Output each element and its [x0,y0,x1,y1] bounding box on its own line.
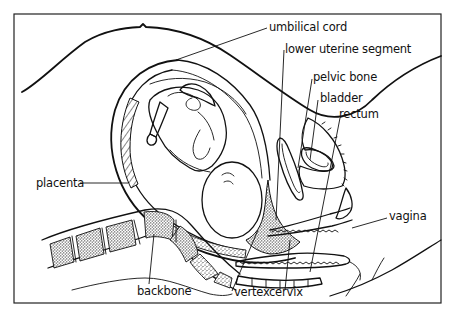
label-umbilical-cord: umbilical cord [269,20,347,34]
placenta [121,98,139,188]
vertebra [50,237,74,268]
vertebra [106,220,136,252]
abdomen-outline [22,24,441,117]
leader-umbilical-cord [176,28,267,60]
leader-vagina [352,218,387,228]
vertebra [190,254,218,280]
label-backbone: backbone [137,284,192,298]
label-vagina: vagina [389,209,426,223]
leader-lower-uterine-segment [276,50,284,220]
label-lower-uterine-segment: lower uterine segment [285,42,412,56]
vertebra [76,228,104,261]
vertebra [144,211,174,240]
label-rectum: rectum [339,107,379,121]
rectum [236,253,350,268]
fetus-head [202,162,262,238]
thigh-contour [330,240,441,296]
label-vertex: vertex [234,285,270,299]
label-bladder: bladder [320,91,363,105]
fetus-arm [193,130,210,159]
buttock-crease [346,274,360,296]
fetus-foot [147,134,157,145]
umbilical-cord-coil [168,92,200,110]
label-placenta: placenta [36,176,84,190]
leader-pelvic-bone [298,79,312,168]
uterus-inner-wall [124,70,240,250]
amniotic-membrane [172,70,262,178]
anatomy-diagram: umbilical cord lower uterine segment pel… [0,0,454,313]
fetus-leg [150,102,168,137]
label-pelvic-bone: pelvic bone [313,70,377,84]
label-cervix: cervix [269,285,303,299]
leader-rectum [310,118,340,272]
leader-backbone [149,234,154,284]
anus-line [350,262,361,280]
labia [336,188,352,219]
